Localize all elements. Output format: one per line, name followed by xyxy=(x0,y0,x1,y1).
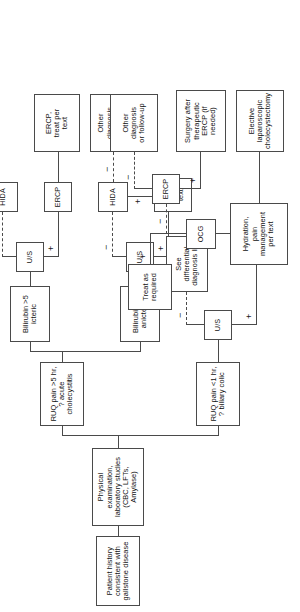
connector-uscolic-plus xyxy=(256,265,257,325)
connector-uslow-minus-stem xyxy=(112,256,126,257)
sign-hidalow-plus: + xyxy=(134,199,143,204)
node-hida-low: HIDA xyxy=(98,182,128,212)
sign-ocg-treat-plus: + xyxy=(139,254,148,259)
node-treat-as-required: Treat as required xyxy=(128,264,172,310)
connector-ercphigh-out xyxy=(58,152,59,182)
connector-ushigh-plus xyxy=(58,212,59,257)
node-us-biliary-colic: U/S xyxy=(204,310,232,340)
node-physical-exam: Physical examination, laboratory studies… xyxy=(92,448,144,526)
node-ocg: OCG xyxy=(186,219,216,249)
sign-uslow-plus: + xyxy=(157,246,166,251)
node-patient-history: Patient history consistent with gallston… xyxy=(96,536,140,606)
node-ercp-biliary-colic: ERCP xyxy=(152,174,180,204)
connector-hidalow-plus-stem xyxy=(128,196,154,197)
node-ercp-treat-per-text: ERCP, treat per text xyxy=(34,94,80,152)
node-surgery-after-ercp: Surgery after therapeutic ERCP (if neede… xyxy=(176,90,226,152)
connector-to-bili-low xyxy=(140,342,141,352)
node-hydration-pain: Hydration, pain management per text xyxy=(230,203,288,265)
sign-ercpcolic-minus: − xyxy=(124,175,133,180)
sign-ushigh-minus: − xyxy=(0,245,1,250)
connector-uscolic-minus-stem xyxy=(186,324,204,325)
node-ruq-pain-short: RUQ pain <1 hr, ? biliary colic xyxy=(196,362,240,426)
sign-ercpcolic-plus: + xyxy=(189,178,198,183)
connector-hidalow-minus xyxy=(113,152,114,182)
connector-ercpcolic-plus xyxy=(200,152,201,189)
connector-to-ruq-short xyxy=(218,426,219,436)
sign-uslow-minus: − xyxy=(102,245,111,250)
connector-ruqlong-out xyxy=(62,352,63,362)
node-elective-lap-chole: Elective laparoscopic cholecystectomy xyxy=(236,90,284,152)
node-hida-high: HIDA xyxy=(0,182,18,212)
node-ercp-bilirubin-high: ERCP xyxy=(44,182,72,212)
connector-uscolic-plus-stem xyxy=(232,324,256,325)
connector-uslow-minus xyxy=(112,212,113,257)
connector-to-ruq-long xyxy=(62,426,63,436)
connector-bilihigh-to-us xyxy=(30,272,31,286)
sign-ushigh-plus: + xyxy=(47,246,56,251)
node-other-diagnosis-3: Other diagnosis or follow-up xyxy=(110,94,158,152)
connector-exam-split xyxy=(62,435,219,436)
connector-ocg-minus-ercp xyxy=(166,204,167,234)
node-us-bilirubin-high: U/S xyxy=(16,242,44,272)
connector-history-exam-line xyxy=(118,526,119,536)
connector-ruqshort-to-us xyxy=(218,340,219,362)
sign-uscolic-plus: + xyxy=(245,314,254,319)
connector-ercpcolic-minus xyxy=(134,152,135,189)
node-ruq-pain-long: RUQ pain >5 hr, ? acute cholecystitis xyxy=(40,362,84,426)
connector-ushigh-plus-stem xyxy=(44,256,58,257)
connector-bilirubin-split xyxy=(30,351,140,352)
connector-ushigh-minus xyxy=(2,212,3,257)
node-bilirubin-high: Bilirubin >5 icteric xyxy=(10,286,50,342)
connector-uscolic-minus xyxy=(186,292,187,325)
connector-ercpcolic-minus-stem xyxy=(134,188,152,189)
connector-ushigh-branch xyxy=(2,256,16,257)
connector-to-bili-high xyxy=(30,342,31,352)
connector-exam-out xyxy=(118,436,119,448)
connector-ercpcolic-plus-stem xyxy=(180,188,200,189)
sign-uscolic-minus: − xyxy=(176,313,185,318)
connector-hydration-to-lapchole xyxy=(259,152,260,203)
connector-ocg-plus-treat xyxy=(150,234,151,264)
sign-hidalow-minus: − xyxy=(103,167,112,172)
connector-hydration-to-ocg-stem xyxy=(216,233,230,234)
flowchart-canvas: Patient history consistent with gallston… xyxy=(0,0,300,612)
sign-ocg-ercp-minus: − xyxy=(156,219,165,224)
connector-ocg-up xyxy=(150,233,186,234)
